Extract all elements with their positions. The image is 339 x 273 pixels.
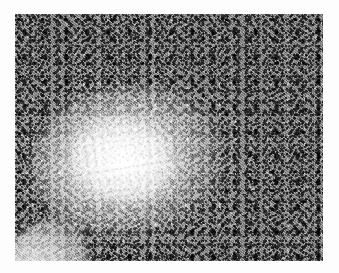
screenshot-canvas	[0, 0, 339, 273]
soft-focus-layer	[15, 14, 323, 261]
histopathology-micrograph	[15, 14, 323, 261]
